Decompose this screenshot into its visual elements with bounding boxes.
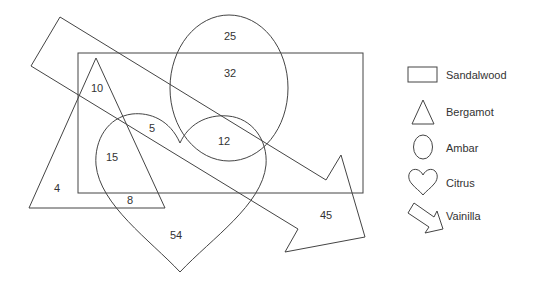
legend-ellipse-icon — [414, 135, 433, 159]
legend-label-ambar: Ambar — [446, 142, 479, 154]
legend: Sandalwood Bergamot Ambar Citrus Vainill… — [408, 67, 507, 233]
region-label-bergamot-citrus: 8 — [127, 194, 133, 206]
bergamot-triangle — [29, 58, 165, 208]
legend-label-sandalwood: Sandalwood — [446, 69, 507, 81]
region-label-vainilla-only: 45 — [320, 209, 332, 221]
legend-heart-icon — [409, 169, 437, 195]
venn-diagram: 25 32 10 5 12 15 4 8 54 45 Sandalwood Be… — [0, 0, 536, 283]
legend-label-vainilla: Vainilla — [446, 210, 482, 222]
region-label-citrus-only: 54 — [170, 229, 182, 241]
region-label-bergamot-only: 4 — [54, 182, 60, 194]
legend-rectangle-icon — [408, 67, 437, 82]
region-label-citrus-sandalwood-vainilla: 5 — [149, 122, 155, 134]
legend-label-citrus: Citrus — [446, 177, 475, 189]
legend-triangle-icon — [412, 100, 434, 124]
legend-arrow-icon — [408, 203, 443, 233]
region-label-bergamot-sandalwood-vainilla: 10 — [91, 82, 103, 94]
sandalwood-rectangle — [78, 53, 363, 193]
vainilla-arrow — [31, 17, 365, 252]
region-label-ambar-sandalwood: 32 — [224, 67, 236, 79]
region-label-bergamot-citrus-sandalwood: 15 — [106, 151, 118, 163]
region-label-ambar-only: 25 — [224, 30, 236, 42]
legend-label-bergamot: Bergamot — [446, 106, 494, 118]
region-label-ambar-citrus-sandalwood: 12 — [218, 135, 230, 147]
